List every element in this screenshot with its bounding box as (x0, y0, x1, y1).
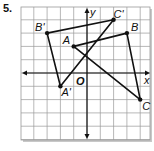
vertex-a-label: A (62, 34, 70, 46)
vertex-c-label: C (142, 100, 150, 112)
x-axis-label: x (143, 74, 150, 86)
vertex-c-prime-label: C' (114, 8, 125, 20)
vertex-a-prime-label: A' (60, 86, 71, 98)
vertex-b-prime-label: B' (35, 21, 45, 33)
vertex-a-point (72, 44, 76, 48)
origin-label: O (76, 75, 85, 87)
vertex-b-point (125, 31, 129, 35)
vertex-b-label: B (131, 21, 138, 33)
vertex-b-prime-point (45, 31, 49, 35)
coordinate-graph: yxOABCA'B'C' (0, 0, 154, 151)
